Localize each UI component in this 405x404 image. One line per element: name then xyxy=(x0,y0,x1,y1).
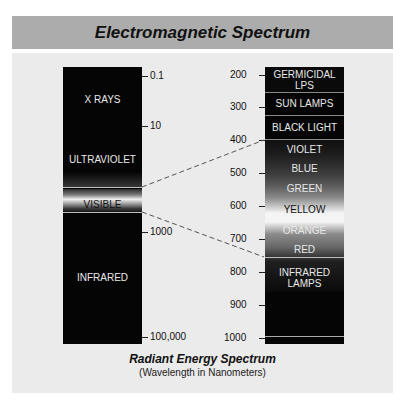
zoom-connector-lines xyxy=(0,0,405,404)
caption-subtitle: (Wavelength in Nanometers) xyxy=(0,367,405,378)
caption-title: Radiant Energy Spectrum xyxy=(0,352,405,366)
